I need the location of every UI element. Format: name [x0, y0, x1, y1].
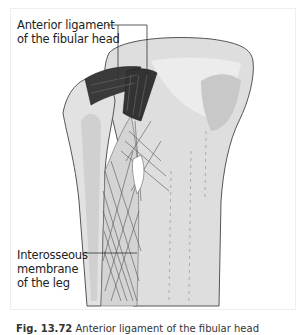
figure-caption: Fig. 13.72 Anterior ligament of the fibu… [16, 323, 259, 335]
figure-frame: Anterior ligament of the fibular head In… [10, 8, 296, 310]
label-interosseous-membrane: Interosseous membrane of the leg [17, 248, 88, 290]
label-line: of the fibular head [17, 32, 120, 46]
label-line: of the leg [17, 276, 88, 290]
label-anterior-ligament: Anterior ligament of the fibular head [17, 18, 120, 46]
label-line: Interosseous [17, 248, 88, 262]
label-line: Anterior ligament [17, 18, 120, 32]
caption-number: Fig. 13.72 [16, 323, 72, 334]
label-line: membrane [17, 262, 88, 276]
caption-text: Anterior ligament of the fibular head [76, 323, 259, 334]
